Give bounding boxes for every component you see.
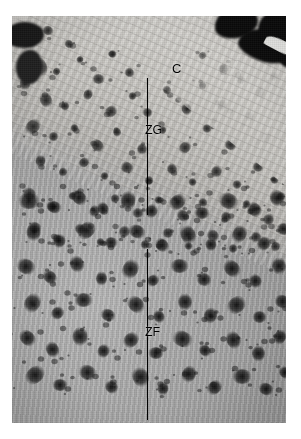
label-zona-fasciculata: ZF — [145, 326, 160, 339]
label-capsule: C — [172, 62, 181, 75]
annotation-overlay: C ZG ZF — [12, 16, 286, 423]
histology-micrograph-image: C ZG ZF — [12, 16, 286, 423]
zona-glomerulosa-bracket-line — [147, 78, 148, 215]
label-zona-glomerulosa: ZG — [145, 124, 162, 137]
figure-root: C ZG ZF — [0, 0, 301, 439]
